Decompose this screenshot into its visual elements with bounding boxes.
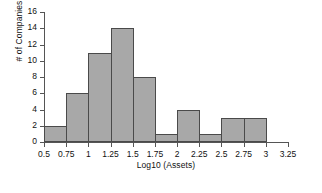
x-axis-tick xyxy=(133,142,134,147)
y-axis-tick: 12 xyxy=(40,45,45,46)
x-axis-tick-label: 1 xyxy=(86,149,91,159)
x-axis-tick xyxy=(66,142,67,147)
x-axis-tick-label: 2.25 xyxy=(191,149,208,159)
y-axis-tick-label: 4 xyxy=(32,104,37,114)
x-axis-tick xyxy=(155,142,156,147)
x-axis-tick-label: 2 xyxy=(175,149,180,159)
x-axis-tick xyxy=(288,142,289,147)
x-axis-tick xyxy=(88,142,89,147)
y-axis-tick-label: 8 xyxy=(32,71,37,81)
x-axis-line xyxy=(44,142,288,143)
x-axis-tick-label: 2.75 xyxy=(235,149,252,159)
x-axis-tick-label: 1.5 xyxy=(127,149,139,159)
histogram-bar xyxy=(66,93,89,142)
x-axis-tick-label: 2.5 xyxy=(216,149,228,159)
plot-area: 0246810121416 0.50.7511.251.51.7522.252.… xyxy=(44,12,288,142)
x-axis-tick-label: 1.25 xyxy=(102,149,119,159)
x-axis-tick-label: 3.25 xyxy=(280,149,297,159)
y-axis-tick: 10 xyxy=(40,61,45,62)
y-axis-tick-label: 6 xyxy=(32,87,37,97)
x-axis-tick xyxy=(221,142,222,147)
y-axis-tick: 6 xyxy=(40,93,45,94)
x-axis-title: Log10 (Assets) xyxy=(44,160,288,170)
histogram-bar xyxy=(44,126,67,142)
y-axis-tick: 14 xyxy=(40,28,45,29)
y-axis-tick-label: 10 xyxy=(28,55,37,65)
y-axis-tick-label: 2 xyxy=(32,120,37,130)
x-axis-tick xyxy=(266,142,267,147)
y-axis-tick: 4 xyxy=(40,110,45,111)
y-axis-tick-label: 0 xyxy=(32,136,37,146)
x-axis-tick-label: 1.75 xyxy=(147,149,164,159)
y-axis-tick-label: 12 xyxy=(28,39,37,49)
x-axis-tick xyxy=(244,142,245,147)
y-axis-tick-label: 14 xyxy=(28,22,37,32)
histogram-bar xyxy=(177,110,200,143)
y-axis-title: # of Companies xyxy=(14,0,24,86)
histogram-bar xyxy=(221,118,244,142)
histogram-bar xyxy=(155,134,178,142)
histogram-bar xyxy=(244,118,267,142)
x-axis-tick-label: 0.75 xyxy=(58,149,75,159)
x-axis-tick xyxy=(111,142,112,147)
histogram-bar xyxy=(199,134,222,142)
y-axis-tick-label: 16 xyxy=(28,6,37,16)
x-axis-tick xyxy=(44,142,45,147)
x-axis-tick-label: 0.5 xyxy=(38,149,50,159)
histogram-bar xyxy=(133,77,156,142)
x-axis-tick xyxy=(177,142,178,147)
y-axis-tick: 16 xyxy=(40,12,45,13)
y-axis-tick: 8 xyxy=(40,77,45,78)
x-axis-tick-label: 3 xyxy=(263,149,268,159)
histogram-bar xyxy=(111,28,134,142)
histogram-bar xyxy=(88,53,111,142)
x-axis-tick xyxy=(199,142,200,147)
histogram-chart: # of Companies 0246810121416 0.50.7511.2… xyxy=(0,0,322,193)
